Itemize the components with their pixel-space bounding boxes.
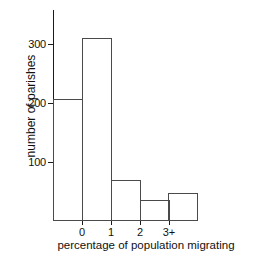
y-tick-300 (48, 44, 54, 45)
bar-bin-1 (53, 99, 83, 221)
bar-bin-5 (168, 193, 198, 221)
bar-bin-2 (82, 38, 112, 221)
x-tick-label-2: 2 (128, 227, 152, 238)
y-axis-title: number of parishes (25, 0, 37, 221)
histogram-figure: 300 200 100 0 1 2 3+ number of parishes … (0, 0, 268, 262)
y-tick-label-100: 100 (2, 157, 46, 168)
plot-area: 300 200 100 0 1 2 3+ number of parishes … (0, 0, 268, 262)
bar-bin-4 (140, 200, 170, 221)
x-axis-title: percentage of population migrating (28, 240, 264, 252)
x-tick-label-0: 0 (70, 227, 94, 238)
x-tick-label-3plus: 3+ (157, 227, 181, 238)
bar-bin-3 (111, 180, 141, 221)
x-tick-label-1: 1 (99, 227, 123, 238)
y-tick-label-300: 300 (2, 39, 46, 50)
